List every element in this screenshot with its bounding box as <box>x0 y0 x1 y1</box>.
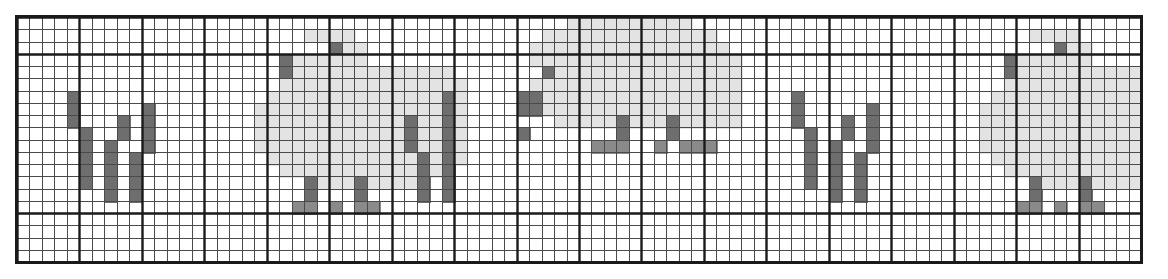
chart-grid-canvas <box>15 15 1143 264</box>
chart-page: Sheep and Grass Border Chart A cross-sti… <box>0 0 1168 279</box>
cross-stitch-chart <box>15 15 1143 264</box>
